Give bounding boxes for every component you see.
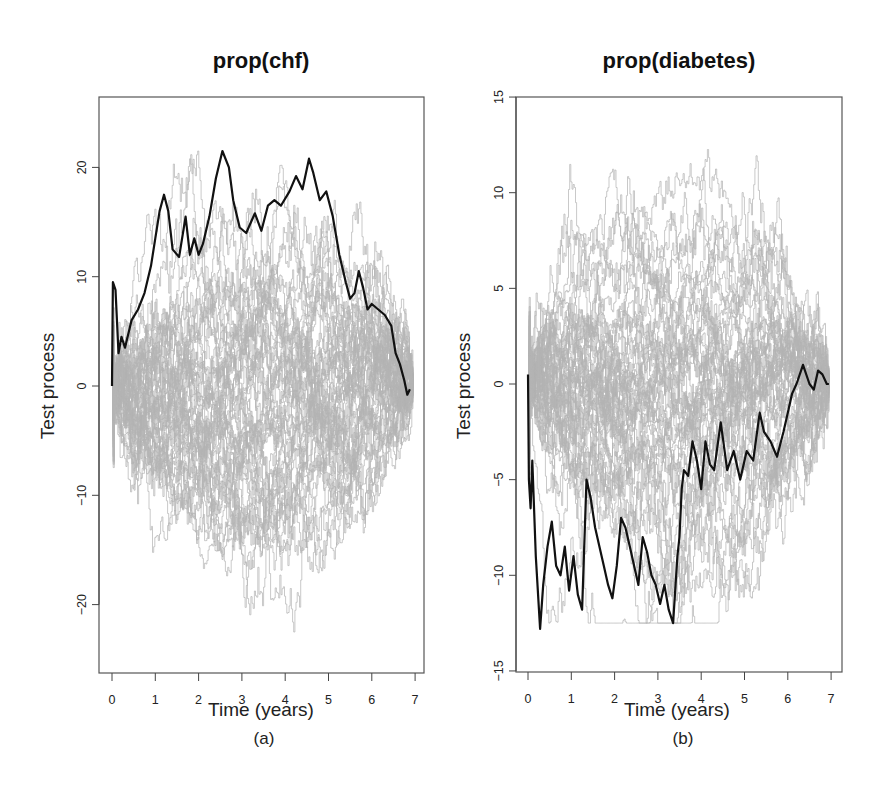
panel-b-y-axis-label: Test process: [453, 333, 474, 440]
panel-a-caption: (a): [254, 729, 275, 748]
x-tick-label: 0: [109, 693, 116, 707]
x-tick-label: 2: [195, 693, 202, 707]
x-tick-label: 6: [784, 692, 791, 706]
y-tick-label: 15: [492, 90, 506, 104]
y-tick-label: −5: [492, 472, 506, 486]
x-tick-label: 0: [525, 692, 532, 706]
panel-a-chf: prop(chf) −20−1001020 01234567 Test proc…: [37, 48, 424, 748]
y-tick-label: 20: [75, 160, 89, 174]
figure: prop(chf) −20−1001020 01234567 Test proc…: [0, 0, 879, 795]
panel-b-diabetes: prop(diabetes) −15−10−5051015 01234567 T…: [453, 48, 842, 748]
y-tick-label: −10: [492, 565, 506, 586]
panel-a-title: prop(chf): [213, 48, 310, 73]
panel-a-y-axis: −20−1001020: [75, 160, 99, 615]
panel-a-y-axis-label: Test process: [37, 333, 58, 440]
x-tick-label: 1: [568, 692, 575, 706]
x-tick-label: 6: [368, 693, 375, 707]
panel-b-caption: (b): [673, 729, 694, 748]
panel-b-y-axis: −15−10−5051015: [492, 90, 516, 682]
y-tick-label: −15: [492, 660, 506, 681]
x-tick-label: 7: [828, 692, 835, 706]
y-tick-label: 10: [492, 186, 506, 200]
x-tick-label: 1: [152, 693, 159, 707]
x-tick-label: 2: [611, 692, 618, 706]
y-tick-label: −10: [75, 485, 89, 506]
x-tick-label: 5: [741, 692, 748, 706]
x-tick-label: 7: [412, 693, 419, 707]
panel-b-x-axis-label: Time (years): [624, 699, 730, 720]
panel-a-x-axis-label: Time (years): [208, 699, 314, 720]
y-tick-label: −20: [75, 594, 89, 615]
y-tick-label: 0: [492, 380, 506, 387]
y-tick-label: 10: [75, 270, 89, 284]
panel-b-title: prop(diabetes): [603, 48, 756, 73]
x-tick-label: 5: [325, 693, 332, 707]
y-tick-label: 5: [492, 285, 506, 292]
y-tick-label: 0: [75, 382, 89, 389]
